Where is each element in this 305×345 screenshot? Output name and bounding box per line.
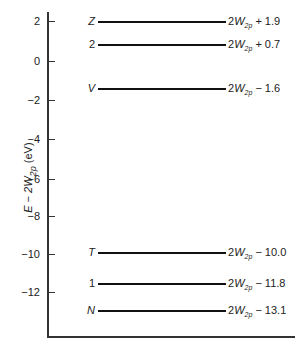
ylabel-pre: E − 2 [22, 187, 34, 213]
tick-label: −8 [0, 210, 40, 222]
level-line [98, 283, 226, 285]
level-line [98, 88, 226, 90]
tick-label: 0 [0, 55, 40, 67]
energy-level: 2 2W2p + 0.7 [0, 44, 305, 56]
energy-level: T 2W2p − 10.0 [0, 252, 305, 264]
state-label: 2 [89, 38, 95, 50]
energy-level: Z 2W2p + 1.9 [0, 21, 305, 33]
energy-label: 2W2p − 1.6 [228, 82, 280, 99]
energy-level: V 2W2p − 1.6 [0, 88, 305, 100]
x-axis [47, 336, 295, 338]
state-label: T [88, 246, 95, 258]
energy-label: 2W2p − 13.1 [228, 304, 286, 321]
level-line [98, 44, 226, 46]
level-line [98, 21, 226, 23]
energy-level: N 2W2p − 13.1 [0, 310, 305, 322]
energy-label: 2W2p + 0.7 [228, 38, 280, 55]
tick-mark [47, 61, 55, 62]
tick-label: −6 [0, 173, 40, 185]
energy-label: 2W2p + 1.9 [228, 15, 280, 32]
state-label: Z [88, 15, 95, 27]
tick-label: −4 [0, 133, 40, 145]
level-line [98, 252, 226, 254]
level-line [98, 310, 226, 312]
energy-label: 2W2p − 11.8 [228, 277, 285, 294]
ylabel-post: (eV) [22, 142, 34, 166]
state-label: 1 [89, 277, 95, 289]
tick-mark [47, 179, 55, 180]
energy-level: 1 2W2p − 11.8 [0, 283, 305, 295]
tick-mark [47, 216, 55, 217]
energy-label: 2W2p − 10.0 [228, 246, 286, 263]
state-label: N [87, 304, 95, 316]
state-label: V [88, 82, 95, 94]
tick-mark [47, 100, 55, 101]
tick-mark [47, 139, 55, 140]
